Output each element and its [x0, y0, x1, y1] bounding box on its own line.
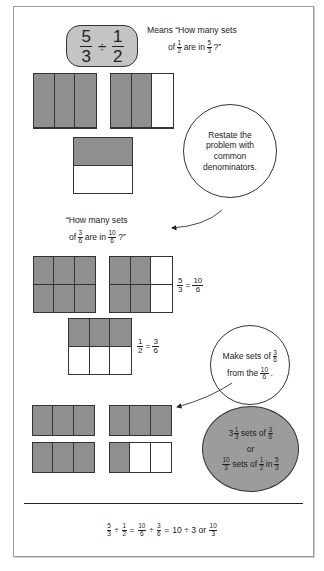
text: ?” — [214, 43, 222, 52]
text: denominators. — [203, 162, 257, 173]
meaning-line-1: Means “How many sets — [147, 26, 237, 35]
or-text: or — [247, 444, 255, 455]
fraction-three-sixths: 36 — [78, 230, 83, 244]
final-equation: 53 ÷ 12 = 106 ÷ 36 = 10 ÷ 3 or 103 — [0, 520, 324, 540]
numerator: 5 — [80, 28, 91, 47]
callout-make-sets: Make sets of 36 from the 106 . — [210, 325, 290, 405]
text: common — [214, 151, 247, 162]
result-ellipse: 313 sets of 36 or 103 sets of 12 in 53 — [202, 406, 299, 492]
fraction-one-half: 1 2 — [112, 28, 123, 65]
text: are in — [184, 43, 205, 52]
model-three-sixths — [68, 318, 132, 375]
fraction-ten-sixths: 106 — [108, 230, 116, 244]
label-one-half-equals-three-sixths: 12 = 36 — [137, 337, 159, 355]
restated-question-line-2: of 36 are in 106 ?” — [69, 229, 126, 245]
model-four-sixths — [109, 256, 173, 313]
set-of-three-sixths-3 — [32, 442, 95, 473]
set-of-three-sixths-2 — [109, 405, 172, 436]
text: Restate the — [208, 130, 251, 141]
divider-line — [24, 503, 303, 504]
numerator: 1 — [112, 28, 123, 47]
model-six-sixths — [33, 256, 96, 313]
restated-question-line-1: “How many sets — [66, 216, 128, 225]
model-three-thirds — [33, 73, 97, 129]
model-one-half — [73, 137, 133, 194]
label-five-thirds-equals-ten-sixths: 53 = 106 — [177, 276, 203, 294]
text: of — [168, 43, 175, 52]
set-of-three-sixths-1 — [32, 405, 95, 436]
meaning-line-2: of 12 are in 53 ?” — [168, 39, 221, 55]
text: problem with — [206, 140, 254, 151]
partial-set-one-sixth — [109, 442, 172, 473]
model-two-thirds — [110, 73, 174, 129]
fraction-five-thirds: 5 3 — [80, 28, 91, 65]
denominator: 3 — [81, 47, 90, 65]
problem-expression-box: 5 3 ÷ 1 2 — [66, 25, 138, 67]
fraction-five-thirds: 53 — [207, 40, 212, 54]
denominator: 2 — [113, 47, 122, 65]
callout-restate-common-denominators: Restate the problem with common denomina… — [183, 104, 277, 198]
fraction-one-half: 12 — [177, 40, 182, 54]
division-operator: ÷ — [98, 38, 106, 55]
